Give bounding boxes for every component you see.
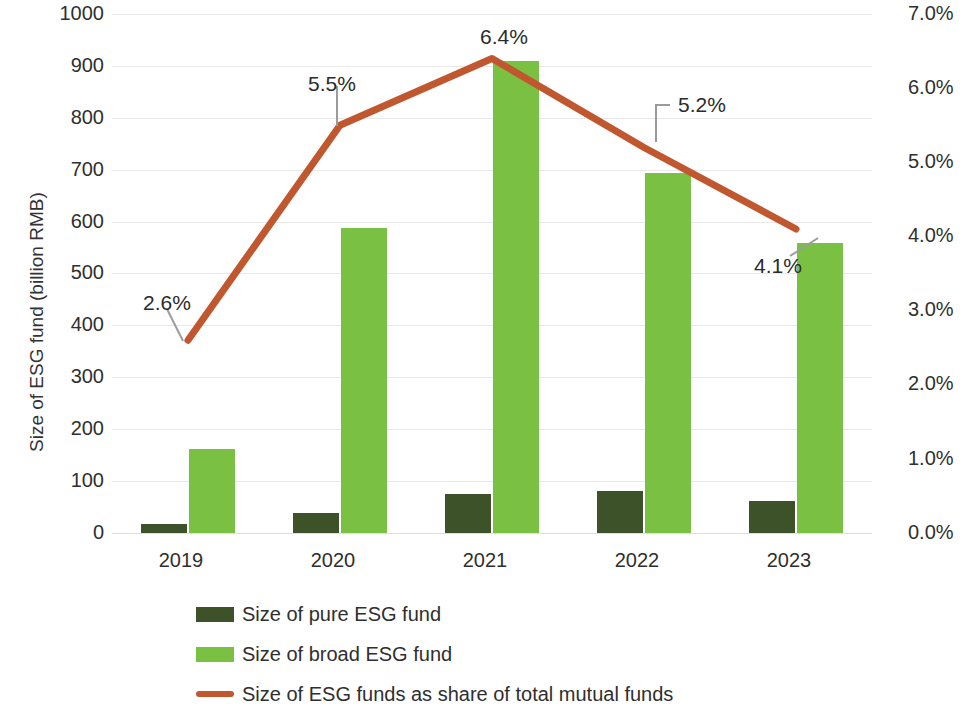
bar-pure-2023	[749, 501, 795, 533]
legend-label-share: Size of ESG funds as share of total mutu…	[242, 683, 673, 706]
y-tick-left: 1000	[26, 2, 104, 25]
y-tick-right: 4.0%	[908, 224, 966, 247]
y-tick-left: 500	[26, 261, 104, 284]
bar-broad-2020	[341, 228, 387, 533]
x-tick-2022: 2022	[562, 549, 712, 572]
y-tick-right: 5.0%	[908, 150, 966, 173]
bar-pure-2019	[141, 524, 187, 533]
x-tick-2021: 2021	[410, 549, 560, 572]
legend-label-pure: Size of pure ESG fund	[242, 603, 441, 626]
y-tick-left: 700	[26, 158, 104, 181]
y-tick-left: 300	[26, 365, 104, 388]
y-tick-right: 1.0%	[908, 447, 966, 470]
bar-broad-2023	[797, 243, 843, 533]
y-tick-right: 3.0%	[908, 298, 966, 321]
legend-swatch-icon-broad	[196, 647, 234, 662]
data-label-2019: 2.6%	[143, 291, 191, 315]
data-label-2020: 5.5%	[308, 72, 356, 96]
legend-item-share-line: Size of ESG funds as share of total mutu…	[196, 674, 896, 714]
y-tick-left: 900	[26, 54, 104, 77]
bar-pure-2021	[445, 494, 491, 533]
axis-baseline	[112, 533, 872, 534]
bar-broad-2022	[645, 173, 691, 533]
data-label-2021: 6.4%	[480, 25, 528, 49]
legend-line-icon-share	[196, 691, 234, 697]
chart-legend: Size of pure ESG fund Size of broad ESG …	[196, 594, 896, 714]
y-tick-left: 600	[26, 210, 104, 233]
bar-pure-2022	[597, 491, 643, 533]
bar-broad-2021	[493, 61, 539, 533]
bar-broad-2019	[189, 449, 235, 533]
y-tick-left: 400	[26, 313, 104, 336]
y-tick-left: 200	[26, 417, 104, 440]
data-label-2023: 4.1%	[754, 254, 802, 278]
legend-item-broad-esg-fund: Size of broad ESG fund	[196, 634, 896, 674]
y-tick-left: 800	[26, 106, 104, 129]
y-tick-left: 0	[26, 521, 104, 544]
chart-container: Size of ESG fund (billion RMB) 1000 900 …	[0, 0, 966, 717]
data-label-2022: 5.2%	[678, 93, 726, 117]
x-tick-2019: 2019	[106, 549, 256, 572]
y-tick-left: 100	[26, 469, 104, 492]
legend-swatch-icon-pure	[196, 607, 234, 622]
y-tick-right: 2.0%	[908, 372, 966, 395]
legend-label-broad: Size of broad ESG fund	[242, 643, 452, 666]
x-tick-2020: 2020	[258, 549, 408, 572]
x-tick-2023: 2023	[714, 549, 864, 572]
legend-item-pure-esg-fund: Size of pure ESG fund	[196, 594, 896, 634]
y-tick-right: 6.0%	[908, 76, 966, 99]
bar-pure-2020	[293, 513, 339, 533]
y-tick-right: 7.0%	[908, 2, 966, 25]
y-tick-right: 0.0%	[908, 521, 966, 544]
